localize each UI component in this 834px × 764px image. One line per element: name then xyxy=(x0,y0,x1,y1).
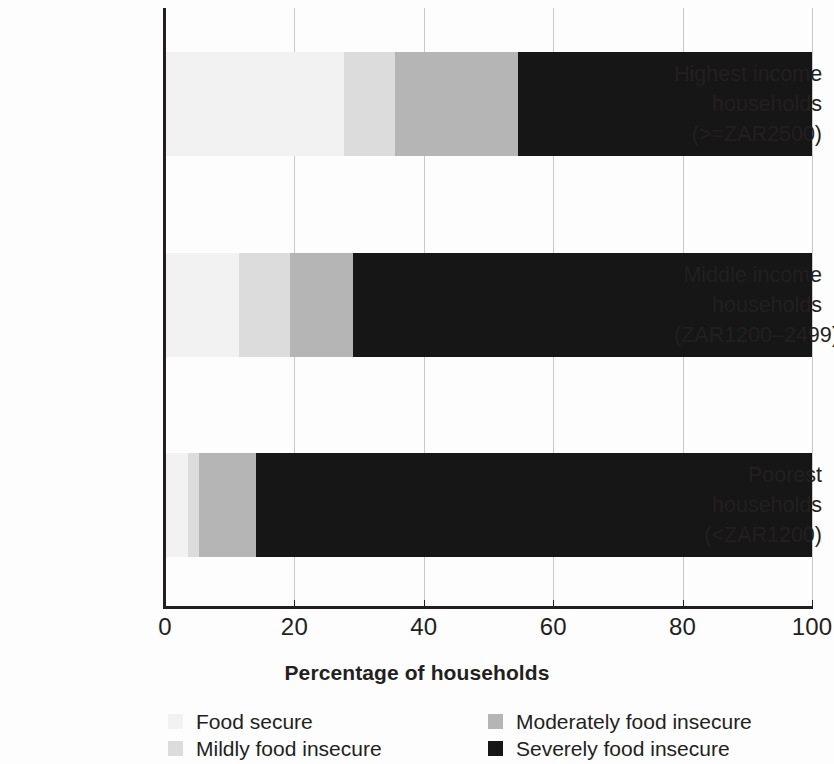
legend-swatch-icon xyxy=(488,714,503,729)
x-tick xyxy=(424,600,425,609)
x-tick-label: 20 xyxy=(281,613,308,641)
category-label-line: (>=ZAR2500) xyxy=(674,119,822,149)
legend-label: Moderately food insecure xyxy=(516,710,752,734)
legend-swatch-icon xyxy=(168,741,183,756)
category-label-3: Pooresthouseholds(<ZAR1200) xyxy=(674,460,834,550)
x-tick xyxy=(812,600,813,609)
category-label-line: households xyxy=(674,89,822,119)
category-label-line: Middle income xyxy=(674,260,822,290)
x-axis-title: Percentage of households xyxy=(0,661,834,685)
x-tick-label: 100 xyxy=(792,613,833,641)
legend-label: Food secure xyxy=(196,710,313,734)
chart-figure: 020406080100 Highest incomehouseholds(>=… xyxy=(0,0,834,764)
bar-segment xyxy=(344,52,394,156)
x-axis-line xyxy=(163,606,813,609)
bar-segment xyxy=(165,453,188,557)
bar-segment xyxy=(395,52,519,156)
bar-segment xyxy=(188,453,199,557)
bar-segment xyxy=(165,52,344,156)
category-label-line: (ZAR1200–2499) xyxy=(674,320,822,350)
category-label-line: (<ZAR1200) xyxy=(674,520,822,550)
y-axis-line xyxy=(163,8,166,609)
category-label-line: households xyxy=(674,490,822,520)
category-label-line: Highest income xyxy=(674,59,822,89)
bar-segment xyxy=(290,253,353,357)
legend-item[interactable]: Food secure xyxy=(168,710,488,734)
legend-item[interactable]: Severely food insecure xyxy=(488,737,828,761)
x-tick xyxy=(165,600,166,609)
category-label-line: households xyxy=(674,290,822,320)
x-tick xyxy=(683,600,684,609)
x-tick xyxy=(294,600,295,609)
x-tick-label: 60 xyxy=(540,613,567,641)
x-tick-label: 40 xyxy=(410,613,437,641)
bar-segment xyxy=(199,453,255,557)
category-label-2: Middle incomehouseholds(ZAR1200–2499) xyxy=(674,260,834,350)
x-tick-label: 0 xyxy=(158,613,172,641)
legend-label: Severely food insecure xyxy=(516,737,730,761)
legend-label: Mildly food insecure xyxy=(196,737,382,761)
bar-segment xyxy=(239,253,290,357)
legend-item[interactable]: Mildly food insecure xyxy=(168,737,488,761)
legend-item[interactable]: Moderately food insecure xyxy=(488,710,828,734)
bar-segment xyxy=(165,253,239,357)
category-label-1: Highest incomehouseholds(>=ZAR2500) xyxy=(674,59,834,149)
legend-swatch-icon xyxy=(168,714,183,729)
chart-legend: Food secureModerately food insecureMildl… xyxy=(168,708,828,762)
legend-swatch-icon xyxy=(488,741,503,756)
x-tick-label: 80 xyxy=(669,613,696,641)
x-tick xyxy=(553,600,554,609)
category-label-line: Poorest xyxy=(674,460,822,490)
